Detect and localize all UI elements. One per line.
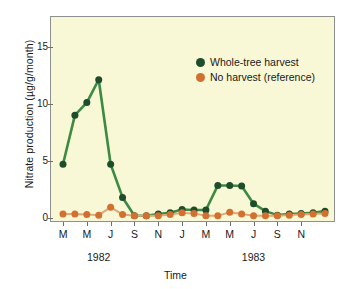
x-tick-mark bbox=[63, 222, 64, 226]
x-tick-label: J bbox=[174, 228, 190, 240]
x-axis-period-label: 1983 bbox=[234, 251, 274, 263]
legend-label: Whole-tree harvest bbox=[210, 57, 299, 68]
x-axis-period-label: 1982 bbox=[79, 251, 119, 263]
x-tick-label: J bbox=[246, 228, 262, 240]
x-tick-label: N bbox=[293, 228, 309, 240]
x-tick-mark bbox=[301, 222, 302, 226]
legend-marker-icon bbox=[196, 73, 205, 82]
x-tick-label: S bbox=[126, 228, 142, 240]
y-tick-mark bbox=[48, 161, 53, 162]
x-axis-title: Time bbox=[0, 269, 351, 281]
x-tick-mark bbox=[206, 222, 207, 226]
x-tick-mark bbox=[134, 222, 135, 226]
figure: 051015 Nitrate production (µg/g/month) T… bbox=[0, 0, 351, 289]
x-tick-label: M bbox=[198, 228, 214, 240]
legend-item: No harvest (reference) bbox=[196, 70, 315, 85]
x-tick-label: J bbox=[103, 228, 119, 240]
y-tick-mark bbox=[48, 218, 53, 219]
x-tick-label: M bbox=[79, 228, 95, 240]
y-tick-mark bbox=[48, 104, 53, 105]
x-tick-label: M bbox=[55, 228, 71, 240]
x-tick-mark bbox=[230, 222, 231, 226]
x-tick-mark bbox=[182, 222, 183, 226]
x-tick-mark bbox=[254, 222, 255, 226]
y-axis-title: Nitrate production (µg/g/month) bbox=[23, 19, 35, 209]
x-tick-mark bbox=[277, 222, 278, 226]
plot-area bbox=[50, 16, 335, 222]
x-tick-mark bbox=[111, 222, 112, 226]
x-tick-label: M bbox=[222, 228, 238, 240]
x-tick-label: N bbox=[150, 228, 166, 240]
legend: Whole-tree harvestNo harvest (reference) bbox=[196, 55, 315, 85]
legend-label: No harvest (reference) bbox=[210, 72, 315, 83]
x-tick-mark bbox=[158, 222, 159, 226]
y-tick-label: 0 bbox=[30, 213, 48, 223]
legend-marker-icon bbox=[196, 58, 205, 67]
x-tick-label: S bbox=[269, 228, 285, 240]
legend-item: Whole-tree harvest bbox=[196, 55, 315, 70]
y-tick-mark bbox=[48, 47, 53, 48]
x-tick-mark bbox=[87, 222, 88, 226]
